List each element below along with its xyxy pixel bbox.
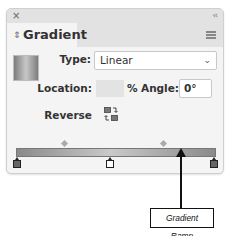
reverse-gradient-icon[interactable] [104,106,118,120]
gradient-ramp[interactable] [16,148,216,157]
color-stop-selected[interactable] [106,157,114,168]
tab-gradient-label: Gradient [23,26,87,44]
reverse-label: Reverse [37,108,92,122]
gradient-swatch[interactable] [13,55,39,81]
color-stop[interactable] [13,157,21,168]
midpoint-diamond-icon[interactable] [160,140,167,147]
tab-bar: ⇕ Gradient [7,23,223,47]
type-dropdown-value: Linear [100,53,133,68]
location-field[interactable] [96,80,124,97]
callout-label: Gradient Ramp [155,209,210,236]
location-label: Location: [27,81,92,95]
close-icon[interactable]: × [12,9,20,23]
expand-collapse-arrows-icon[interactable]: ⇕ [13,28,21,42]
tab-gradient[interactable]: ⇕ Gradient [7,23,77,47]
type-dropdown[interactable]: Linear ⌄ [94,51,217,70]
percent-label: % [127,81,137,95]
collapse-icon[interactable]: ‹‹ [213,9,217,23]
callout-box: Gradient Ramp [150,208,214,228]
panel-menu-icon[interactable] [206,31,216,39]
angle-label: Angle: [141,81,176,95]
gradient-panel: × ‹‹ ⇕ Gradient Type: Linear ⌄ Location:… [6,8,224,174]
midpoint-diamond-icon[interactable] [61,140,68,147]
chevron-down-icon: ⌄ [203,53,211,68]
angle-value: 0° [184,81,197,96]
type-label: Type: [47,52,91,66]
angle-field[interactable]: 0° [179,79,212,98]
color-stop[interactable] [210,157,218,168]
panel-titlebar[interactable]: × ‹‹ [7,9,223,23]
callout-line [180,156,182,208]
